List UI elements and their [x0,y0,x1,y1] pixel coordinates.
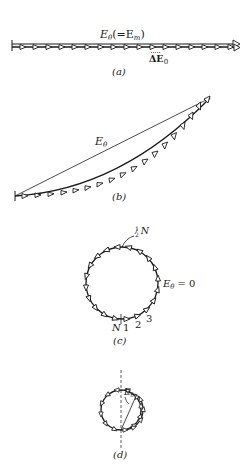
index-label-3: 3 [146,313,152,324]
zero-resultant-label: Eθ= 0 [162,278,195,291]
caption-a: (a) [112,66,126,77]
element-arrows-d [98,387,146,432]
index-label-1: 1 [123,322,129,333]
panel-c: 1⁄2N Eθ= 0 N 1 2 3 (c) [83,225,196,346]
half-n-label: 1⁄2N [134,225,150,238]
element-arrows-a [20,40,240,51]
resultant-pointer-d [125,397,129,404]
resultant-label-a: Eθ(=Em) [99,28,145,42]
resultant-label-b: Eθ [94,135,108,149]
index-label-n: N [111,322,122,333]
caption-d: (d) [113,449,127,460]
element-arrows-c [83,244,161,322]
panel-b: Eθ (b) [15,96,210,202]
resultant-label-d: Eθ [123,387,135,398]
element-label-a: ΔE0 [149,53,168,66]
caption-c: (c) [113,335,127,346]
caption-b: (b) [112,191,126,202]
index-label-2: 2 [135,319,141,330]
panel-d: Eθ (d) [98,370,146,460]
element-arrows-b [22,96,210,199]
resultant-chord-b [15,98,210,196]
phasor-diagram: Eθ(=Em) ΔE0 (a) Eθ [0,0,249,469]
panel-a: Eθ(=Em) ΔE0 (a) [12,28,240,77]
